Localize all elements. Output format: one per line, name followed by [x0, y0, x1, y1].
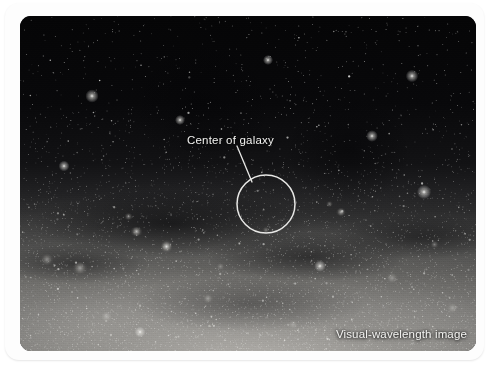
leader-line: [237, 146, 252, 182]
center-of-galaxy-label: Center of galaxy: [187, 134, 274, 146]
galaxy-center-circle-marker: [237, 175, 295, 233]
annotation-graphics: [20, 16, 476, 351]
annotation-layer: Center of galaxy Visual-wavelength image: [20, 16, 476, 351]
image-caption: Visual-wavelength image: [336, 328, 467, 340]
figure-card: Center of galaxy Visual-wavelength image: [5, 3, 484, 360]
sky-photograph: Center of galaxy Visual-wavelength image: [20, 16, 476, 351]
